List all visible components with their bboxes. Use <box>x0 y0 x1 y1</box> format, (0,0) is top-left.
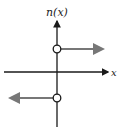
step-function-graph: n(x) x <box>0 0 120 127</box>
lower-open-circle <box>53 94 61 102</box>
upper-open-circle <box>53 45 61 53</box>
function-label: n(x) <box>46 6 68 19</box>
x-axis-label: x <box>111 67 117 78</box>
